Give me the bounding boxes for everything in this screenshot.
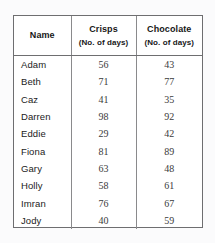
cell-crisps: 98 [71,108,136,125]
cell-chocolate: 48 [136,160,202,177]
cell-chocolate: 42 [136,125,202,142]
cell-name: Caz [14,91,71,108]
cell-name: Jody [14,212,71,229]
table-body: Adam5643Beth7177Caz4135Darren9892Eddie29… [14,56,202,229]
table-row: Jody4059 [14,212,202,229]
cell-name: Adam [14,56,71,74]
table-row: Beth7177 [14,73,202,90]
table-row: Gary6348 [14,160,202,177]
cell-chocolate: 77 [136,73,202,90]
data-table: Name Crisps (No. of days) Chocolate (No.… [14,16,202,229]
table-row: Imran7667 [14,194,202,211]
table-header-row: Name Crisps (No. of days) Chocolate (No.… [14,16,202,56]
cell-crisps: 76 [71,194,136,211]
table-row: Darren9892 [14,108,202,125]
table-row: Caz4135 [14,91,202,108]
cell-name: Beth [14,73,71,90]
column-header-name-title: Name [14,29,71,42]
column-header-chocolate: Chocolate (No. of days) [136,16,202,56]
cell-crisps: 41 [71,91,136,108]
cell-crisps: 71 [71,73,136,90]
column-header-crisps-subtitle: (No. of days) [72,37,136,49]
cell-crisps: 63 [71,160,136,177]
cell-name: Fiona [14,142,71,159]
table-row: Adam5643 [14,56,202,74]
cell-chocolate: 67 [136,194,202,211]
cell-name: Gary [14,160,71,177]
cell-name: Imran [14,194,71,211]
cell-name: Holly [14,177,71,194]
cell-chocolate: 59 [136,212,202,229]
cell-crisps: 56 [71,56,136,74]
column-header-crisps-title: Crisps [72,23,136,36]
cell-crisps: 29 [71,125,136,142]
column-header-chocolate-title: Chocolate [137,23,203,36]
column-header-crisps: Crisps (No. of days) [71,16,136,56]
cell-name: Darren [14,108,71,125]
cell-crisps: 81 [71,142,136,159]
cell-chocolate: 35 [136,91,202,108]
cell-name: Eddie [14,125,71,142]
table-row: Fiona8189 [14,142,202,159]
cell-crisps: 40 [71,212,136,229]
column-header-chocolate-subtitle: (No. of days) [137,37,203,49]
table-row: Holly5861 [14,177,202,194]
column-header-name: Name [14,16,71,56]
cell-crisps: 58 [71,177,136,194]
cell-chocolate: 61 [136,177,202,194]
table-header: Name Crisps (No. of days) Chocolate (No.… [14,16,202,56]
cell-chocolate: 43 [136,56,202,74]
cell-chocolate: 89 [136,142,202,159]
data-table-container: Name Crisps (No. of days) Chocolate (No.… [13,15,203,228]
cell-chocolate: 92 [136,108,202,125]
table-row: Eddie2942 [14,125,202,142]
